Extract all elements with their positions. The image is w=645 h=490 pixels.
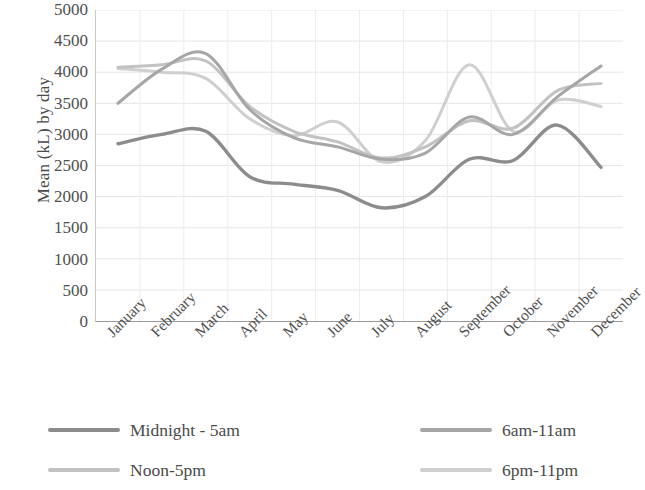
- y-axis-tick-label: 0: [22, 312, 88, 332]
- y-axis-tick-label: 1500: [22, 218, 88, 238]
- legend-line-swatch: [420, 428, 492, 432]
- legend-line-swatch: [48, 428, 120, 432]
- y-axis-tick-label: 2000: [22, 187, 88, 207]
- legend-item[interactable]: Midnight - 5am: [48, 418, 240, 442]
- legend-item[interactable]: Noon-5pm: [48, 458, 206, 482]
- plot-svg: [96, 10, 623, 321]
- legend-label: 6am-11am: [502, 420, 576, 441]
- y-axis-tick-label: 4500: [22, 31, 88, 51]
- legend-line-swatch: [420, 468, 492, 472]
- gridlines: [96, 10, 623, 321]
- legend-label: 6pm-11pm: [502, 460, 578, 481]
- y-axis-tick-label: 500: [22, 281, 88, 301]
- y-axis-tick-label: 1000: [22, 250, 88, 270]
- x-axis-tick-labels: JanuaryFebruaryMarchAprilMayJuneJulyAugu…: [95, 322, 623, 402]
- legend-line-swatch: [48, 468, 120, 472]
- chart-legend: Midnight - 5am6am-11amNoon-5pm6pm-11pm: [0, 408, 634, 490]
- y-axis-tick-label: 3000: [22, 125, 88, 145]
- y-axis-tick-label: 3500: [22, 94, 88, 114]
- plot-area: [95, 10, 623, 322]
- y-axis-tick-label: 5000: [22, 0, 88, 20]
- y-axis-tick-label: 4000: [22, 62, 88, 82]
- legend-label: Noon-5pm: [130, 460, 206, 481]
- legend-item[interactable]: 6pm-11pm: [420, 458, 578, 482]
- y-axis-tick-labels: 5000450040003500300025002000150010005000: [22, 0, 88, 330]
- y-axis-tick-label: 2500: [22, 156, 88, 176]
- legend-label: Midnight - 5am: [130, 420, 240, 441]
- legend-item[interactable]: 6am-11am: [420, 418, 576, 442]
